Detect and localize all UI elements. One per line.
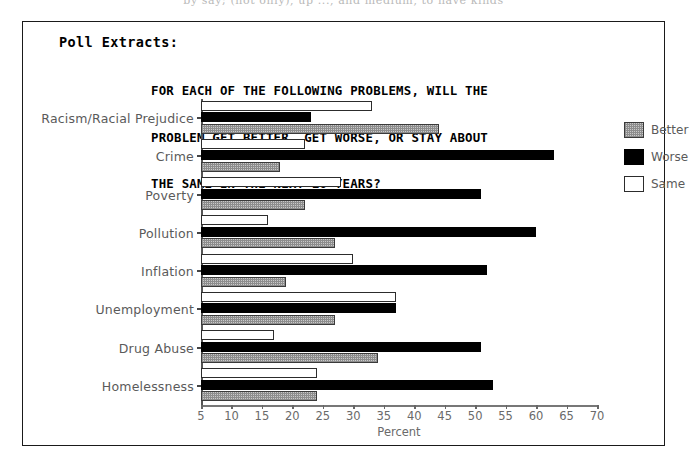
chart-title-line-1: FOR EACH OF THE FOLLOWING PROBLEMS, WILL… xyxy=(151,83,488,99)
bar-better xyxy=(201,277,286,287)
legend-item-better: Better xyxy=(624,118,694,141)
bar-same xyxy=(201,139,305,149)
bar-group: Poverty xyxy=(201,176,597,214)
x-tick: 20 xyxy=(292,405,294,409)
x-tick: 65 xyxy=(567,405,569,409)
x-tick: 40 xyxy=(414,405,416,409)
category-label: Homelessness xyxy=(102,378,194,393)
bar-worse xyxy=(201,342,481,352)
bar-same xyxy=(201,368,317,378)
legend-item-same: Same xyxy=(624,172,694,195)
x-tick: 35 xyxy=(384,405,386,409)
bar-same xyxy=(201,101,372,111)
category-label: Poverty xyxy=(145,187,194,202)
bar-same xyxy=(201,177,341,187)
x-tick: 70 xyxy=(597,405,599,409)
bar-group: Homelessness xyxy=(201,367,597,405)
bar-worse xyxy=(201,227,536,237)
x-tick: 10 xyxy=(231,405,233,409)
legend-label-worse: Worse xyxy=(651,150,688,164)
legend-swatch-worse-icon xyxy=(624,149,644,165)
legend-item-worse: Worse xyxy=(624,145,694,168)
x-axis-label: Percent xyxy=(201,425,597,439)
x-tick: 30 xyxy=(353,405,355,409)
category-label: Crime xyxy=(156,149,194,164)
bar-worse xyxy=(201,150,554,160)
bar-group: Pollution xyxy=(201,214,597,252)
category-label: Unemployment xyxy=(96,302,194,317)
legend-swatch-better-icon xyxy=(624,122,644,138)
bar-chart-plot-area: Racism/Racial PrejudiceCrimePovertyPollu… xyxy=(201,99,597,405)
bar-group: Inflation xyxy=(201,252,597,290)
legend-label-same: Same xyxy=(651,177,685,191)
x-tick: 45 xyxy=(445,405,447,409)
figure-frame: Poll Extracts: FOR EACH OF THE FOLLOWING… xyxy=(22,21,665,446)
bar-worse xyxy=(201,265,487,275)
bar-same xyxy=(201,330,274,340)
category-label: Drug Abuse xyxy=(119,340,194,355)
legend-label-better: Better xyxy=(651,123,688,137)
x-tick: 60 xyxy=(536,405,538,409)
poll-extracts-label: Poll Extracts: xyxy=(59,34,178,50)
chart-legend: Better Worse Same xyxy=(624,118,694,199)
bar-group: Crime xyxy=(201,137,597,175)
bar-better xyxy=(201,124,439,134)
cropped-body-text-line: by say; (not only), up ..., and medium, … xyxy=(0,0,687,8)
bar-group: Racism/Racial Prejudice xyxy=(201,99,597,137)
bar-worse xyxy=(201,189,481,199)
x-tick: 15 xyxy=(262,405,264,409)
bar-better xyxy=(201,391,317,401)
bar-better xyxy=(201,315,335,325)
bar-worse xyxy=(201,303,396,313)
x-tick: 55 xyxy=(506,405,508,409)
bar-better xyxy=(201,200,305,210)
bar-worse xyxy=(201,112,311,122)
bar-worse xyxy=(201,380,493,390)
bar-same xyxy=(201,215,268,225)
x-tick: 5 xyxy=(201,405,203,409)
bar-group: Drug Abuse xyxy=(201,329,597,367)
bar-better xyxy=(201,162,280,172)
legend-swatch-same-icon xyxy=(624,176,644,192)
category-label: Inflation xyxy=(141,264,194,279)
bar-same xyxy=(201,292,396,302)
category-label: Racism/Racial Prejudice xyxy=(41,111,194,126)
bar-better xyxy=(201,353,378,363)
bar-group: Unemployment xyxy=(201,290,597,328)
x-tick: 50 xyxy=(475,405,477,409)
category-label: Pollution xyxy=(139,225,194,240)
bar-better xyxy=(201,238,335,248)
bar-same xyxy=(201,254,353,264)
x-tick: 25 xyxy=(323,405,325,409)
